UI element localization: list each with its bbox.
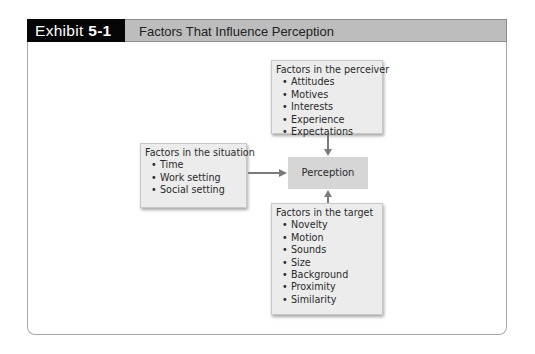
target-factors-box: Factors in the target Novelty Motion Sou… bbox=[271, 203, 383, 315]
exhibit-prefix: Exhibit bbox=[35, 22, 88, 39]
perception-node: Perception bbox=[288, 157, 368, 189]
arrow-up-line bbox=[327, 196, 329, 203]
list-item: Attitudes bbox=[282, 76, 378, 88]
list-item: Similarity bbox=[282, 294, 378, 306]
target-title: Factors in the target bbox=[276, 207, 378, 219]
exhibit-frame bbox=[27, 19, 507, 335]
arrow-down-line bbox=[327, 135, 329, 150]
perceiver-factors-box: Factors in the perceiver Attitudes Motiv… bbox=[271, 60, 383, 134]
arrow-right-head-icon bbox=[279, 169, 287, 177]
list-item: Interests bbox=[282, 101, 378, 113]
situation-factors-box: Factors in the situation Time Work setti… bbox=[140, 143, 247, 208]
arrow-up-head-icon bbox=[324, 190, 332, 197]
list-item: Social setting bbox=[151, 184, 242, 196]
list-item: Motives bbox=[282, 89, 378, 101]
list-item: Background bbox=[282, 269, 378, 281]
arrow-right-line bbox=[248, 172, 280, 174]
list-item: Expectations bbox=[282, 126, 378, 138]
perceiver-title: Factors in the perceiver bbox=[276, 64, 378, 76]
list-item: Sounds bbox=[282, 244, 378, 256]
arrow-down-head-icon bbox=[324, 149, 332, 156]
perceiver-list: Attitudes Motives Interests Experience E… bbox=[276, 76, 378, 138]
list-item: Experience bbox=[282, 114, 378, 126]
situation-list: Time Work setting Social setting bbox=[145, 159, 242, 196]
list-item: Proximity bbox=[282, 281, 378, 293]
target-list: Novelty Motion Sounds Size Background Pr… bbox=[276, 219, 378, 306]
list-item: Novelty bbox=[282, 219, 378, 231]
list-item: Size bbox=[282, 257, 378, 269]
exhibit-number: 5-1 bbox=[88, 22, 111, 39]
list-item: Motion bbox=[282, 232, 378, 244]
exhibit-title: Factors That Influence Perception bbox=[125, 19, 507, 42]
list-item: Work setting bbox=[151, 172, 242, 184]
situation-title: Factors in the situation bbox=[145, 147, 242, 159]
list-item: Time bbox=[151, 159, 242, 171]
exhibit-label: Exhibit 5-1 bbox=[27, 19, 125, 42]
